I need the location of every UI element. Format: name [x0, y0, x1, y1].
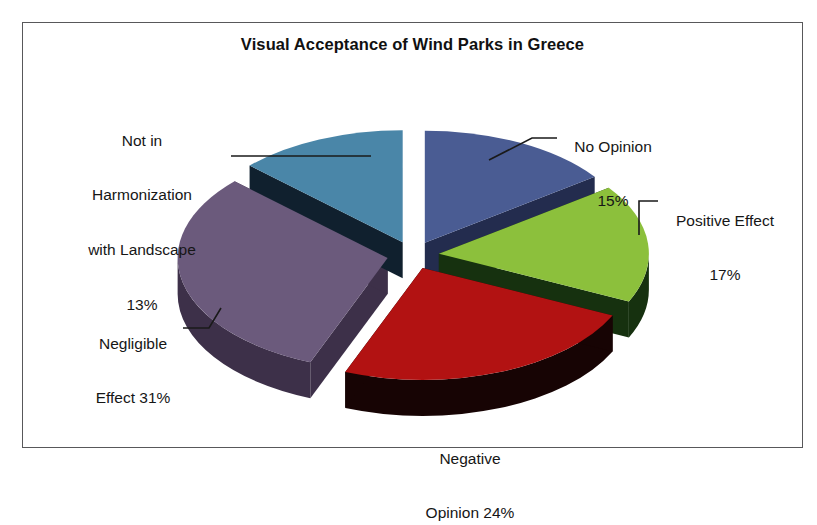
- pie-label-negative-opinion-line1: Negative: [375, 450, 565, 468]
- pie-label-negligible-effect: Negligible Effect 31%: [53, 298, 213, 444]
- pie-label-harmonization-line1: Not in: [47, 132, 237, 150]
- pie-label-negative-opinion: Negative Opinion 24%: [375, 413, 565, 525]
- pie-label-harmonization-line3: with Landscape: [47, 241, 237, 259]
- chart-frame: Visual Acceptance of Wind Parks in Greec…: [22, 22, 803, 448]
- pie-label-no-opinion-line1: No Opinion: [538, 138, 688, 156]
- pie-label-harmonization-line2: Harmonization: [47, 186, 237, 204]
- pie-label-positive-effect: Positive Effect 17%: [640, 175, 810, 321]
- pie-label-positive-effect-value: 17%: [640, 266, 810, 284]
- pie-label-negligible-effect-value: Effect 31%: [53, 389, 213, 407]
- pie-label-positive-effect-line1: Positive Effect: [640, 212, 810, 230]
- pie-label-negative-opinion-value: Opinion 24%: [375, 504, 565, 522]
- pie-label-negligible-effect-line1: Negligible: [53, 335, 213, 353]
